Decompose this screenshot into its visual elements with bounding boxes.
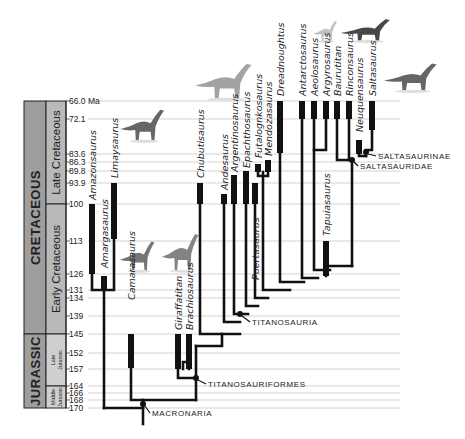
taxon-label: Saltasaurus	[367, 40, 378, 96]
branch	[178, 369, 196, 378]
taxon-label: Amazonsaurus	[87, 130, 98, 201]
range-bar	[243, 171, 249, 204]
taxon-label: Giraffatitan	[173, 276, 184, 330]
taxon-label: Argyrosaurus	[321, 33, 332, 97]
sauropod-icon	[384, 64, 437, 91]
range-bar	[197, 183, 203, 204]
taxon-label: Mendozasaurus	[263, 82, 274, 156]
taxon-label: Antarctosaurus	[297, 24, 308, 97]
range-bar	[277, 101, 283, 153]
tick-label: 170	[69, 403, 83, 413]
clade-label: MACRONARIA	[152, 409, 212, 418]
taxon-label: Limaysaurus	[109, 118, 120, 178]
clade-label: TITANOSAURIA	[252, 318, 318, 327]
range-bar	[346, 101, 352, 119]
taxon-label: Aeolosaurus	[309, 38, 320, 97]
clade-label: TITANOSAURIFORMES	[208, 380, 306, 389]
taxon-label: Epachthosaurus	[241, 92, 252, 168]
tick-label: 157	[69, 364, 83, 374]
range-bar	[186, 334, 192, 369]
titanosaur-timescaled-cladogram: CRETACEOUSJURASSICLate CretaceousEarly C…	[0, 0, 465, 439]
tick-label: 93.9	[69, 178, 86, 188]
branch	[280, 153, 304, 282]
taxon-label: Argentinosaurus	[229, 94, 240, 173]
clade-pointer	[145, 406, 150, 413]
tick-label: 139	[69, 311, 83, 321]
range-bar	[255, 164, 261, 172]
tick-label: 66.0 Ma	[69, 96, 100, 106]
range-bar	[101, 276, 107, 290]
taxon-label: Brachiosaurus	[184, 262, 195, 330]
range-bar	[128, 334, 134, 368]
epoch-label: Late	[50, 355, 56, 366]
range-bar	[252, 183, 258, 204]
taxon-label: Camarasaurus	[126, 231, 137, 300]
clade-pointer	[198, 380, 206, 384]
range-bar	[265, 160, 271, 172]
clade-label: SALTASAURINAE	[378, 152, 451, 161]
branch	[196, 334, 222, 346]
epoch-box	[46, 334, 66, 386]
range-bar	[221, 194, 227, 204]
branch	[263, 172, 290, 290]
range-bar	[111, 183, 117, 239]
tick-label: 113	[69, 236, 83, 246]
range-bar	[334, 101, 340, 119]
epoch-label: Early Cretaceous	[50, 225, 62, 313]
period-label: JURASSIC	[28, 336, 43, 406]
epoch-label: Late Cretaceous	[50, 110, 62, 195]
phylogeny-figure: CRETACEOUSJURASSICLate CretaceousEarly C…	[0, 0, 465, 439]
ground-shadow	[130, 140, 159, 143]
tick-label: 72.1	[69, 114, 86, 124]
taxon-label: Amargasaurus	[99, 199, 110, 269]
ground-shadow	[396, 90, 431, 93]
epoch-label: Middle	[50, 389, 56, 405]
period-label: CRETACEOUS	[28, 170, 43, 265]
range-bar	[299, 101, 305, 119]
tick-label: 145	[69, 329, 83, 339]
clade-pointer	[354, 162, 358, 166]
tick-label: 126	[69, 269, 83, 279]
tick-label: 134	[69, 293, 83, 303]
epoch-label: Jurassic	[57, 387, 63, 407]
epoch-label: Jurassic	[57, 350, 63, 370]
tick-label: 89.8	[69, 166, 86, 176]
clade-label: SALTASAURIDAE	[360, 162, 433, 171]
Saltasaurus-silhouette	[384, 64, 437, 93]
range-bar	[311, 101, 317, 119]
taxon-label: Chubutisaurus	[195, 109, 206, 178]
taxon-label: Tapuiasaurus	[321, 173, 332, 236]
branch	[314, 119, 326, 150]
range-bar	[231, 175, 237, 204]
branch	[224, 204, 240, 322]
range-bar	[175, 334, 181, 369]
sauropod-icon	[120, 110, 164, 141]
range-bar	[89, 204, 95, 274]
taxon-label: Baurutitan	[332, 46, 343, 96]
taxon-label: Puertasaurus	[250, 217, 261, 280]
tick-label: 100	[69, 199, 83, 209]
taxon-label: Neuquensaurus	[354, 57, 365, 132]
branch	[131, 368, 196, 400]
tick-label: 152	[69, 348, 83, 358]
range-bar	[323, 241, 329, 276]
branch	[302, 119, 318, 278]
taxon-label: Dreadnoughtus	[275, 22, 286, 96]
clade-pointer	[242, 316, 250, 322]
geologic-timescale: CRETACEOUSJURASSICLate CretaceousEarly C…	[24, 101, 66, 408]
range-bar	[323, 101, 329, 119]
range-bar	[369, 101, 375, 130]
Limaysaurus-silhouette	[120, 110, 164, 143]
range-bar	[356, 140, 362, 154]
epoch-box	[46, 386, 66, 408]
